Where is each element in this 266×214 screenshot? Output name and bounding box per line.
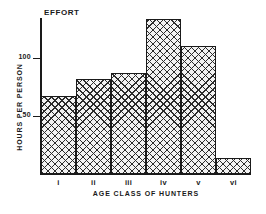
x-tick-label-iv: iv — [146, 178, 181, 187]
bar-iv — [146, 19, 181, 174]
x-axis-label-text: AGE CLASS OF HUNTERS — [41, 190, 251, 197]
bar-v — [181, 46, 216, 174]
bar-i — [41, 96, 76, 174]
x-tick-label-iii: iii — [111, 178, 146, 187]
x-tick-label-vi: vi — [216, 178, 251, 187]
bar-chart-figure: EFFORT HOURS PER PERSON 50100 iiiiiiivvv… — [0, 0, 266, 214]
x-tick-label-i: i — [41, 178, 76, 187]
y-tick-100: 100 — [33, 58, 41, 59]
y-tick-label-100: 100 — [18, 53, 31, 60]
y-axis-label: HOURS PER PERSON — [13, 55, 25, 159]
bar-ii — [76, 79, 111, 174]
y-axis-label-text: HOURS PER PERSON — [16, 63, 23, 151]
y-tick-label-50: 50 — [23, 111, 31, 118]
x-tick-label-ii: ii — [76, 178, 111, 187]
y-tick-50: 50 — [33, 116, 41, 117]
bar-vi — [216, 158, 251, 174]
x-tick-label-v: v — [181, 178, 216, 187]
bar-iii — [111, 73, 146, 174]
plot-area — [41, 14, 251, 174]
